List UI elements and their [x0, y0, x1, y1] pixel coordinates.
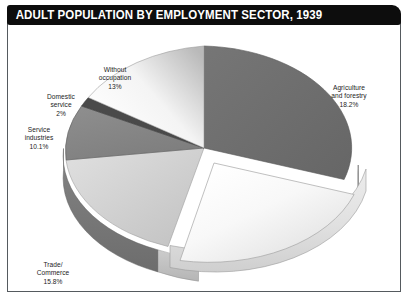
chart-figure: ADULT POPULATION BY EMPLOYMENT SECTOR, 1…	[0, 0, 416, 305]
slice-label-without-occupation: Without occupation 13%	[84, 58, 146, 99]
chart-title-banner: ADULT POPULATION BY EMPLOYMENT SECTOR, 1…	[7, 5, 401, 25]
slice-label-agriculture-name: Agriculture and forestry	[331, 84, 366, 99]
slice-label-domestic-service-name: Domestic service	[47, 93, 75, 108]
slice-label-service-industries-name: Service industries	[25, 126, 54, 141]
slice-label-service-industries-pct: 10.1%	[10, 143, 68, 151]
slice-label-trade-commerce: Trade/ Commerce 15.8%	[22, 253, 84, 291]
slice-label-trade-commerce-name: Trade/ Commerce	[37, 261, 70, 276]
slice-label-service-industries: Service industries 10.1%	[10, 118, 68, 159]
slice-label-industry: Industry 40.9%	[318, 284, 388, 291]
slice-label-domestic-service-pct: 2%	[30, 110, 92, 118]
pie-slice-industry[interactable]	[180, 163, 354, 262]
slice-label-without-occupation-name: Without occupation	[99, 66, 131, 81]
pie-chart-area: Without occupation 13% Domestic service …	[8, 26, 400, 291]
slice-label-trade-commerce-pct: 15.8%	[22, 278, 84, 286]
slice-label-agriculture: Agriculture and forestry 18.2%	[311, 76, 387, 117]
page-title: ADULT POPULATION BY EMPLOYMENT SECTOR, 1…	[7, 8, 322, 22]
slice-label-without-occupation-pct: 13%	[84, 83, 146, 91]
slice-label-agriculture-pct: 18.2%	[311, 101, 387, 109]
